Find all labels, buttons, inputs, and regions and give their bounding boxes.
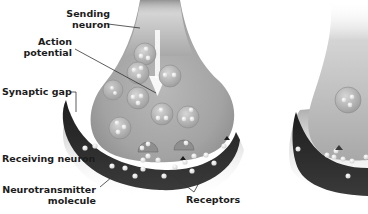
second-sending-neuron	[308, 0, 368, 161]
label-neurotransmitter-line2: molecule	[2, 195, 96, 206]
label-receptors: Receptors	[186, 194, 240, 205]
label-receiving-neuron: Receiving neuron	[2, 153, 95, 164]
label-synaptic-gap: Synaptic gap	[2, 86, 72, 97]
label-action-potential-line1: Action	[20, 36, 72, 47]
vesicle	[335, 87, 361, 113]
label-sending-neuron: Sending neuron	[62, 8, 110, 30]
label-sending-neuron-line2: neuron	[62, 19, 110, 30]
synapse-illustration	[0, 0, 368, 214]
vesicle	[103, 80, 123, 100]
vesicle	[151, 103, 173, 125]
label-neurotransmitter-line1: Neurotransmitter	[2, 184, 96, 195]
vesicle	[127, 87, 149, 109]
synapse-diagram: Sending neuron Action potential Synaptic…	[0, 0, 368, 214]
second-synapse	[289, 0, 368, 200]
vesicle	[134, 43, 156, 65]
label-action-potential: Action potential	[20, 36, 72, 58]
vesicle	[177, 106, 199, 128]
vesicle	[109, 117, 131, 139]
vesicle	[127, 62, 149, 84]
vesicle	[159, 65, 181, 87]
label-neurotransmitter-molecule: Neurotransmitter molecule	[2, 184, 96, 206]
label-sending-neuron-line1: Sending	[62, 8, 110, 19]
label-action-potential-line2: potential	[20, 47, 72, 58]
